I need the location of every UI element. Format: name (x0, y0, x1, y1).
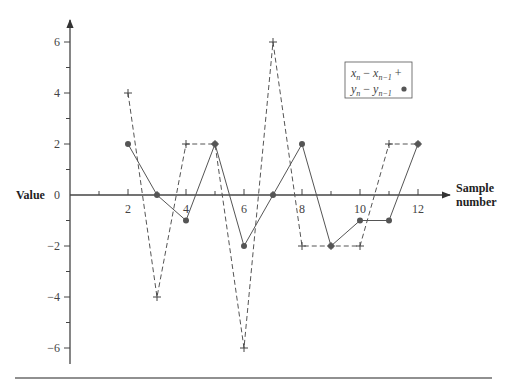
dot-marker-icon (183, 218, 189, 224)
x-tick-label: 10 (354, 202, 366, 216)
y-tick-label: −2 (47, 239, 60, 253)
y-tick-label: 2 (54, 137, 60, 151)
y-tick-label: −6 (47, 341, 60, 355)
plus-marker-icon (182, 140, 190, 148)
y-ticks: 6420−2−4−6 (47, 35, 70, 355)
dot-marker-icon (357, 218, 363, 224)
dot-marker-icon (386, 218, 392, 224)
dot-marker-icon (154, 192, 160, 198)
plus-marker-icon (124, 89, 132, 97)
y-tick-label: 6 (54, 35, 60, 49)
plus-marker-icon (298, 242, 306, 250)
legend-dot-icon (401, 86, 406, 91)
plus-marker-icon (269, 38, 277, 46)
x-tick-label: 8 (299, 202, 305, 216)
dot-marker-icon (212, 141, 218, 147)
x-tick-label: 2 (125, 202, 131, 216)
y-axis-title: Value (16, 188, 46, 202)
y-tick-label: 0 (54, 188, 60, 202)
y-tick-label: 4 (54, 86, 60, 100)
legend: xn − xn−1 + yn − yn−1 (345, 62, 412, 98)
dot-marker-icon (415, 141, 421, 147)
x-ticks: 24681012 (99, 189, 424, 216)
x-axis-title-line1: Sample (456, 181, 495, 195)
plus-marker-icon (153, 293, 161, 301)
plus-marker-icon (240, 344, 248, 352)
dot-marker-icon (125, 141, 131, 147)
plus-marker-icon (356, 242, 364, 250)
dot-marker-icon (241, 243, 247, 249)
x-axis-title-line2: number (456, 195, 497, 209)
difference-chart: 6420−2−4−6 24681012 Value Sample number … (0, 0, 512, 385)
plus-marker-icon (385, 140, 393, 148)
y-tick-label: −4 (47, 290, 60, 304)
dot-marker-icon (299, 141, 305, 147)
dot-marker-icon (328, 243, 334, 249)
x-tick-label: 6 (241, 202, 247, 216)
x-tick-label: 12 (412, 202, 424, 216)
dot-marker-icon (270, 192, 276, 198)
